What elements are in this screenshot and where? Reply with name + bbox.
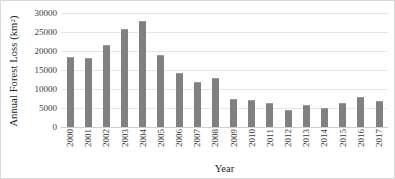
x-tick-slot: 2008 [206,129,224,163]
bar-slot [243,13,261,127]
bar [230,99,237,128]
bar-slot [170,13,188,127]
bar-slot [97,13,115,127]
bar [103,45,110,127]
bar [85,58,92,127]
x-axis-tick-label: 2009 [229,129,239,147]
x-axis-tick-label: 2015 [338,129,348,147]
x-axis-tick-label: 2017 [374,129,384,147]
bar [157,55,164,127]
bar-slot [370,13,388,127]
x-axis-tick-label: 2003 [120,129,130,147]
bar [285,110,292,127]
x-tick-slot: 2006 [170,129,188,163]
x-axis-title: Year [61,163,388,174]
x-axis-tick-label: 2006 [174,129,184,147]
bar [339,103,346,127]
y-axis-tick-label: 0 [23,122,57,132]
bar-slot [297,13,315,127]
x-axis-tick-label: 2016 [356,129,366,147]
x-tick-slot: 2001 [79,129,97,163]
x-axis-tick-label: 2013 [301,129,311,147]
bar [67,57,74,127]
x-axis-tick-label: 2005 [156,129,166,147]
bar-slot [225,13,243,127]
x-tick-slot: 2017 [370,129,388,163]
x-axis-tick-labels: 2000200120022003200420052006200720082009… [61,129,388,163]
bar-slot [206,13,224,127]
y-axis-tick-labels: 050001000015000200002500030000 [23,8,57,133]
bar [303,105,310,127]
y-axis-title-suffix: ) [8,15,19,19]
x-tick-slot: 2010 [243,129,261,163]
x-axis-tick-label: 2012 [283,129,293,147]
bar-slot [261,13,279,127]
bar-slot [152,13,170,127]
x-tick-slot: 2004 [134,129,152,163]
x-axis-tick-label: 2004 [138,129,148,147]
bar [121,29,128,127]
bar [194,82,201,127]
bar-slot [61,13,79,127]
bar-slot [315,13,333,127]
bar-slot [279,13,297,127]
bar [357,97,364,127]
x-tick-slot: 2007 [188,129,206,163]
x-tick-slot: 2000 [61,129,79,163]
bar [248,100,255,127]
x-tick-slot: 2009 [225,129,243,163]
x-axis-tick-label: 2008 [210,129,220,147]
x-tick-slot: 2012 [279,129,297,163]
x-tick-slot: 2011 [261,129,279,163]
bar-slot [352,13,370,127]
axis-baseline [61,127,388,128]
x-axis-tick-label: 2002 [101,129,111,147]
x-axis-tick-label: 2011 [265,129,275,147]
bar-slot [134,13,152,127]
y-axis-tick-label: 5000 [23,103,57,113]
bar [139,21,146,127]
bar [176,73,183,127]
y-axis-title-text: Annual Forest Loss (km [8,23,19,127]
x-tick-slot: 2014 [315,129,333,163]
y-axis-tick-label: 15000 [23,65,57,75]
y-axis-tick-label: 30000 [23,8,57,18]
bar-slot [334,13,352,127]
y-axis-title: Annual Forest Loss (km2) [3,4,23,138]
x-tick-slot: 2005 [152,129,170,163]
x-axis-tick-label: 2000 [65,129,75,147]
bar [321,108,328,127]
y-axis-tick-label: 25000 [23,27,57,37]
x-tick-slot: 2016 [352,129,370,163]
x-tick-slot: 2002 [97,129,115,163]
y-axis-tick-label: 20000 [23,46,57,56]
x-axis-tick-label: 2014 [319,129,329,147]
x-axis-tick-label: 2007 [192,129,202,147]
plot-area [61,13,388,127]
x-axis-tick-label: 2010 [247,129,257,147]
x-axis-tick-label: 2001 [83,129,93,147]
bar-slot [188,13,206,127]
x-tick-slot: 2015 [334,129,352,163]
x-tick-slot: 2003 [116,129,134,163]
bar-chart-figure: Annual Forest Loss (km2) 050001000015000… [0,0,395,179]
bar [212,78,219,127]
bar-slot [79,13,97,127]
bar [266,103,273,127]
bar [376,101,383,127]
bar-slot [116,13,134,127]
y-axis-tick-label: 10000 [23,84,57,94]
x-tick-slot: 2013 [297,129,315,163]
bar-series [61,13,388,127]
